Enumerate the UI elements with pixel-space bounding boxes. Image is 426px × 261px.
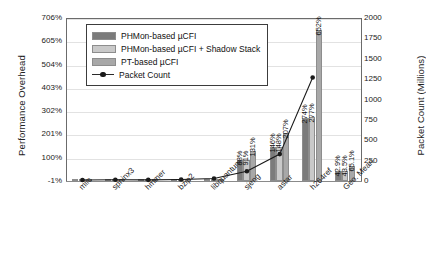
legend-line-swatch-icon: [92, 71, 114, 79]
legend-item[interactable]: Packet Count: [92, 68, 261, 81]
legend-item[interactable]: PT-based µCFI: [92, 55, 261, 68]
y-axis-right-tick-label: 0: [364, 177, 398, 185]
bar-value-label: 207%: [282, 119, 290, 138]
legend-item[interactable]: PHMon-based µCFI: [92, 29, 261, 42]
y-axis-right-tick-label: 1000: [364, 96, 398, 104]
x-axis-category-labels: milcsphinx3hmmerbzip2libquantumsjengasta…: [66, 182, 362, 261]
y-axis-left-tick-label: 706%: [28, 14, 62, 22]
y-axis-right-tick-label: 1250: [364, 75, 398, 83]
chart-legend: PHMon-based µCFIPHMon-based µCFI + Shado…: [86, 24, 268, 86]
legend-item-label: PHMon-based µCFI: [121, 31, 196, 41]
legend-item[interactable]: PHMon-based µCFI + Shadow Stack: [92, 42, 261, 55]
y-axis-right-tick-label: 2000: [364, 14, 398, 22]
y-axis-left-tick-label: 605%: [28, 37, 62, 45]
y-axis-right-ticks: 025050075010001250150017502000: [364, 0, 398, 261]
y-axis-right-tick-label: 1500: [364, 55, 398, 63]
y-axis-right-title: Packet Count (Millions): [415, 31, 426, 181]
bar-value-label: 652%: [315, 17, 323, 36]
legend-item-label: PHMon-based µCFI + Shadow Stack: [121, 44, 260, 54]
y-axis-left-tick-label: 302%: [28, 107, 62, 115]
y-axis-left-ticks: -1%100%201%302%403%504%605%706%: [28, 0, 62, 261]
chart-container: Performance Overhead Packet Count (Milli…: [0, 0, 426, 261]
y-axis-right-tick-label: 1750: [364, 34, 398, 42]
y-axis-left-title: Performance Overhead: [16, 31, 27, 181]
legend-color-swatch-icon: [92, 58, 116, 66]
legend-color-swatch-icon: [92, 45, 116, 53]
y-axis-left-tick-label: -1%: [28, 177, 62, 185]
y-axis-left-tick-label: 201%: [28, 130, 62, 138]
bar-value-label: 131%: [249, 137, 257, 156]
legend-item-label: PT-based µCFI: [121, 57, 178, 67]
y-axis-left-tick-label: 504%: [28, 61, 62, 69]
bar-value-label: 65.1%: [347, 150, 355, 171]
y-axis-left-tick-label: 100%: [28, 154, 62, 162]
bar-value-label: 277%: [308, 103, 316, 122]
y-axis-right-tick-label: 500: [364, 136, 398, 144]
legend-item-label: Packet Count: [119, 70, 170, 80]
legend-color-swatch-icon: [92, 32, 116, 40]
y-axis-right-tick-label: 750: [364, 116, 398, 124]
y-axis-left-tick-label: 403%: [28, 84, 62, 92]
